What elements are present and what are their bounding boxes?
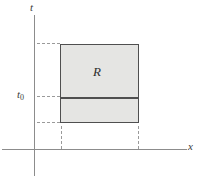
t0-tick-label: t0 <box>17 89 24 102</box>
t-axis-line <box>34 15 35 176</box>
t0-horizontal-line <box>61 97 138 99</box>
region-rectangle <box>60 44 139 123</box>
x-axis-line <box>2 149 187 150</box>
region-label: R <box>93 65 101 78</box>
t-axis-label: t <box>30 2 33 13</box>
dashed-guide-right-drop <box>138 126 139 149</box>
x-axis-label: x <box>188 141 193 152</box>
dashed-guide-left-drop <box>61 126 62 149</box>
dashed-guide-bottom <box>37 122 60 123</box>
dashed-guide-t0 <box>37 96 60 97</box>
t0-label-subscript: 0 <box>20 93 24 102</box>
dashed-guide-top <box>37 43 60 44</box>
tx-plane-diagram: t x t0 R <box>0 0 198 179</box>
